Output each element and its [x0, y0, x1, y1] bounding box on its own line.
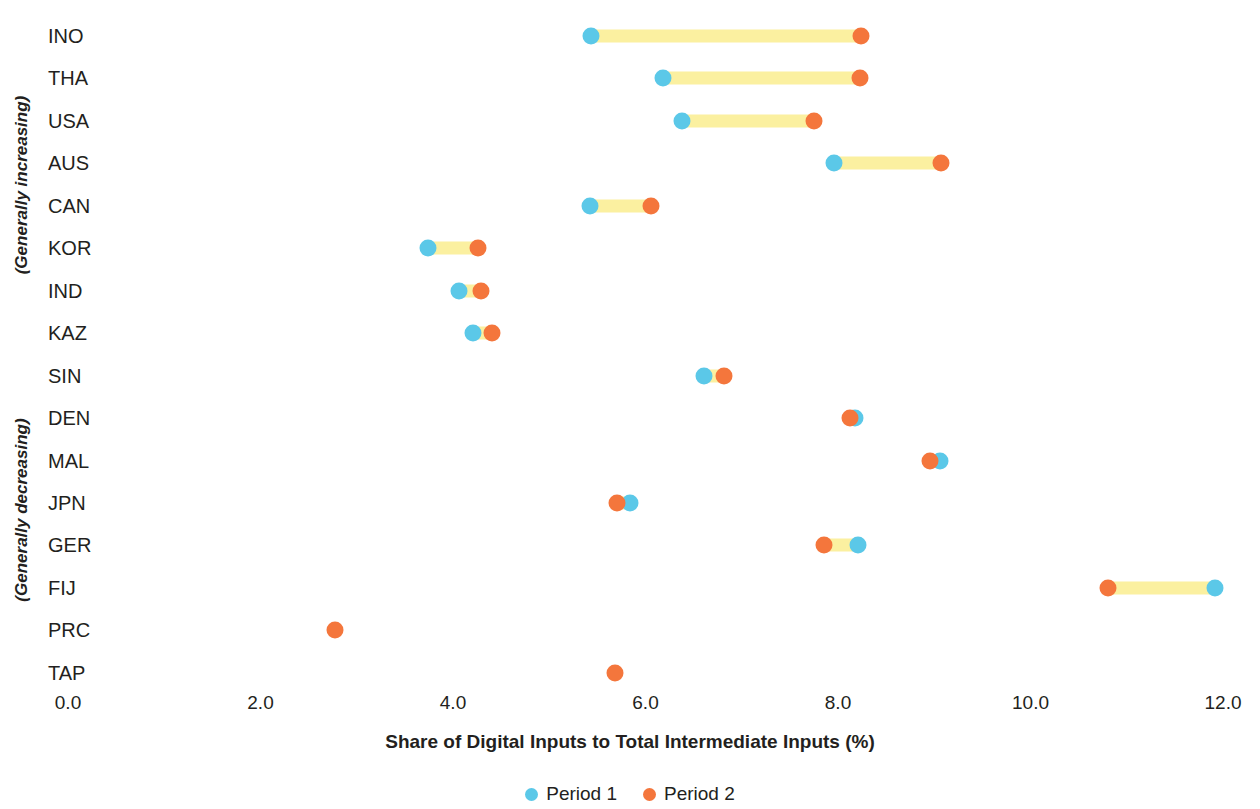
- data-point-period-2[interactable]: [815, 537, 832, 554]
- dumbbell-chart: (Generally increasing) (Generally decrea…: [0, 0, 1260, 809]
- data-point-period-2[interactable]: [470, 240, 487, 257]
- data-point-period-1[interactable]: [654, 70, 671, 87]
- connector-segment: [1108, 581, 1215, 594]
- data-point-period-1[interactable]: [450, 282, 467, 299]
- data-point-period-2[interactable]: [608, 494, 625, 511]
- x-tick-label: 10.0: [1012, 692, 1049, 714]
- data-point-period-2[interactable]: [643, 197, 660, 214]
- x-tick-label: 4.0: [440, 692, 466, 714]
- data-point-period-2[interactable]: [326, 622, 343, 639]
- x-tick-label: 6.0: [632, 692, 658, 714]
- data-point-period-1[interactable]: [850, 537, 867, 554]
- legend-dot-icon: [643, 788, 656, 801]
- data-point-period-1[interactable]: [419, 240, 436, 257]
- data-point-period-2[interactable]: [853, 28, 870, 45]
- connector-segment: [682, 114, 814, 127]
- data-point-period-2[interactable]: [716, 367, 733, 384]
- legend-item[interactable]: Period 1: [525, 783, 617, 805]
- legend-label: Period 1: [546, 783, 617, 805]
- x-tick-label: 12.0: [1205, 692, 1242, 714]
- data-point-period-2[interactable]: [922, 452, 939, 469]
- chart-legend: Period 1Period 2: [0, 783, 1260, 805]
- data-point-period-2[interactable]: [1100, 579, 1117, 596]
- data-point-period-2[interactable]: [472, 282, 489, 299]
- connector-segment: [834, 157, 941, 170]
- data-point-period-2[interactable]: [932, 155, 949, 172]
- plot-area: [0, 0, 1260, 690]
- data-point-period-1[interactable]: [1207, 579, 1224, 596]
- data-point-period-2[interactable]: [805, 112, 822, 129]
- legend-item[interactable]: Period 2: [643, 783, 735, 805]
- data-point-period-1[interactable]: [696, 367, 713, 384]
- x-axis-title: Share of Digital Inputs to Total Interme…: [0, 731, 1260, 753]
- data-point-period-2[interactable]: [841, 410, 858, 427]
- data-point-period-1[interactable]: [674, 112, 691, 129]
- legend-dot-icon: [525, 788, 538, 801]
- data-point-period-2[interactable]: [484, 325, 501, 342]
- connector-segment: [663, 72, 860, 85]
- x-tick-label: 2.0: [247, 692, 273, 714]
- legend-label: Period 2: [664, 783, 735, 805]
- connector-segment: [591, 30, 861, 43]
- x-tick-label: 8.0: [825, 692, 851, 714]
- data-point-period-1[interactable]: [826, 155, 843, 172]
- x-tick-label: 0.0: [55, 692, 81, 714]
- data-point-period-1[interactable]: [581, 197, 598, 214]
- data-point-period-2[interactable]: [852, 70, 869, 87]
- data-point-period-1[interactable]: [465, 325, 482, 342]
- data-point-period-1[interactable]: [582, 28, 599, 45]
- data-point-period-2[interactable]: [606, 664, 623, 681]
